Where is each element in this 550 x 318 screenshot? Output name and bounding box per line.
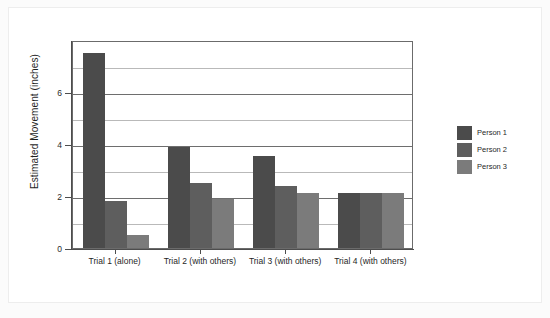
x-axis-tick bbox=[285, 250, 286, 254]
bar bbox=[275, 186, 297, 248]
gridline bbox=[73, 94, 412, 95]
x-axis-tick-label: Trial 4 (with others) bbox=[315, 256, 425, 266]
gridline bbox=[73, 146, 412, 147]
chart-figure: Estimated Movement (inches) 0246 Trial 1… bbox=[0, 0, 550, 318]
legend-label: Person 1 bbox=[477, 129, 507, 137]
bar bbox=[212, 199, 234, 248]
legend-item: Person 3 bbox=[457, 159, 517, 175]
legend-label: Person 2 bbox=[477, 146, 507, 154]
y-axis-tick bbox=[65, 145, 72, 146]
legend-item: Person 2 bbox=[457, 142, 517, 158]
gridline bbox=[73, 68, 412, 69]
y-axis-title: Estimated Movement (inches) bbox=[29, 27, 40, 217]
x-axis-tick bbox=[370, 250, 371, 254]
y-axis-tick bbox=[65, 93, 72, 94]
y-axis-tick-label: 0 bbox=[20, 245, 62, 254]
legend-item: Person 1 bbox=[457, 125, 517, 141]
bar bbox=[168, 147, 190, 248]
y-axis-tick-label: 2 bbox=[20, 193, 62, 202]
x-axis-tick bbox=[115, 250, 116, 254]
bar bbox=[360, 193, 382, 248]
bar bbox=[297, 193, 319, 248]
gridline bbox=[73, 120, 412, 121]
y-axis-tick-label: 6 bbox=[20, 89, 62, 98]
legend-label: Person 3 bbox=[477, 163, 507, 171]
bar bbox=[382, 193, 404, 248]
bar bbox=[253, 156, 275, 248]
y-axis-tick bbox=[65, 197, 72, 198]
bar bbox=[127, 235, 149, 248]
chart-legend: Person 1Person 2Person 3 bbox=[457, 125, 517, 176]
legend-swatch bbox=[457, 143, 472, 157]
bar bbox=[83, 53, 105, 248]
bar bbox=[338, 193, 360, 248]
legend-swatch bbox=[457, 160, 472, 174]
gridline bbox=[73, 172, 412, 173]
x-axis-tick bbox=[200, 250, 201, 254]
x-axis-line bbox=[71, 249, 414, 250]
bar bbox=[105, 201, 127, 248]
plot-area bbox=[72, 41, 413, 249]
y-axis-tick bbox=[65, 249, 72, 250]
bar bbox=[190, 183, 212, 248]
legend-swatch bbox=[457, 126, 472, 140]
y-axis-tick-label: 4 bbox=[20, 141, 62, 150]
